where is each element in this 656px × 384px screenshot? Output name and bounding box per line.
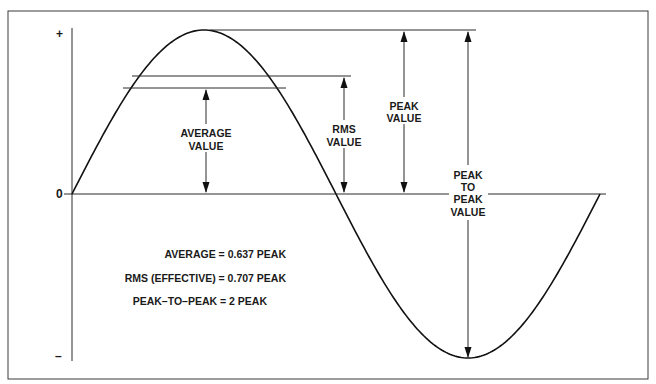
rms-value-arrow	[341, 77, 348, 193]
axis-minus-label: –	[55, 349, 62, 363]
average-value-label-1: AVERAGE	[180, 127, 231, 139]
formula-rms: RMS (EFFECTIVE) = 0.707 PEAK	[125, 272, 287, 284]
peak-to-peak-label-3: PEAK	[453, 193, 483, 205]
formula-peak-to-peak: PEAK–TO–PEAK = 2 PEAK	[133, 295, 268, 307]
rms-value-label-1: RMS	[332, 123, 355, 135]
peak-to-peak-label-2: TO	[461, 181, 475, 193]
axis-zero-label: 0	[56, 187, 63, 201]
peak-value-label-1: PEAK	[389, 100, 419, 112]
rms-value-label-2: VALUE	[327, 136, 362, 148]
peak-value-label-2: VALUE	[387, 112, 422, 124]
peak-to-peak-label-4: VALUE	[451, 206, 486, 218]
formula-average: AVERAGE = 0.637 PEAK	[165, 248, 287, 260]
peak-to-peak-label-1: PEAK	[453, 169, 483, 181]
diagram-frame	[8, 11, 648, 379]
diagram-canvas: + 0 – AVERAGE VALUE	[0, 0, 656, 384]
average-value-label-2: VALUE	[189, 140, 224, 152]
axis-plus-label: +	[56, 27, 63, 41]
